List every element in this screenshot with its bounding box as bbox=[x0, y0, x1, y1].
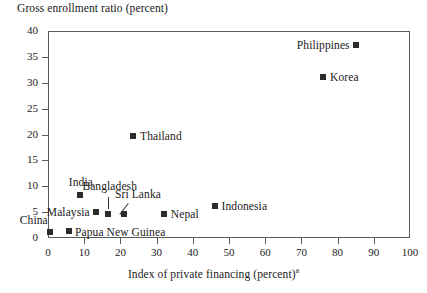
x-axis-tick bbox=[120, 238, 121, 244]
y-axis-tick-label: 0 bbox=[4, 232, 38, 243]
data-point-label: Malaysia bbox=[47, 206, 90, 218]
data-point-label: Indonesia bbox=[222, 200, 268, 212]
x-axis-tick-label: 70 bbox=[281, 247, 321, 258]
scatter-chart-figure: Gross enrollment ratio (percent) 0510152… bbox=[0, 0, 427, 293]
data-point-marker bbox=[320, 74, 326, 80]
x-axis-title-text: Index of private financing (percent) bbox=[128, 268, 296, 280]
y-axis-tick-label: 15 bbox=[4, 154, 38, 165]
x-axis-tick bbox=[338, 238, 339, 244]
x-axis-tick-label: 0 bbox=[28, 247, 68, 258]
x-axis-tick-label: 20 bbox=[100, 247, 140, 258]
data-point-marker bbox=[105, 211, 111, 217]
data-point-marker bbox=[212, 203, 218, 209]
y-axis-tick bbox=[42, 83, 48, 84]
y-axis-tick-label: 30 bbox=[4, 77, 38, 88]
data-point-marker bbox=[47, 229, 53, 235]
x-axis-tick bbox=[193, 238, 194, 244]
y-axis-tick-label: 10 bbox=[4, 180, 38, 191]
y-axis-tick bbox=[42, 186, 48, 187]
x-axis-tick bbox=[301, 238, 302, 244]
data-point-label: Philippines bbox=[297, 39, 350, 51]
x-axis-tick bbox=[84, 238, 85, 244]
data-point-label: Nepal bbox=[171, 208, 199, 220]
y-axis-tick-label: 35 bbox=[4, 51, 38, 62]
y-axis-tick bbox=[42, 160, 48, 161]
x-axis-tick-label: 40 bbox=[173, 247, 213, 258]
x-axis-tick-label: 90 bbox=[354, 247, 394, 258]
y-axis-tick bbox=[42, 57, 48, 58]
y-axis-tick-label: 25 bbox=[4, 103, 38, 114]
y-axis-tick-label: 20 bbox=[4, 129, 38, 140]
x-axis-tick-label: 10 bbox=[64, 247, 104, 258]
data-point-marker bbox=[93, 209, 99, 215]
x-axis-tick-label: 60 bbox=[245, 247, 285, 258]
y-axis-tick-label: 40 bbox=[4, 25, 38, 36]
data-point-label: Korea bbox=[330, 71, 359, 83]
data-point-marker bbox=[77, 192, 83, 198]
data-point-marker bbox=[353, 42, 359, 48]
x-axis-tick-label: 100 bbox=[390, 247, 427, 258]
x-axis-tick-label: 80 bbox=[318, 247, 358, 258]
data-point-label: Papua New Guinea bbox=[75, 226, 165, 238]
y-axis-title: Gross enrollment ratio (percent) bbox=[17, 2, 168, 14]
y-axis-tick bbox=[42, 135, 48, 136]
x-axis-tick-label: 30 bbox=[137, 247, 177, 258]
y-axis-tick bbox=[42, 109, 48, 110]
data-point-label: China bbox=[20, 214, 48, 226]
x-axis-tick bbox=[157, 238, 158, 244]
x-axis-tick-label: 50 bbox=[209, 247, 249, 258]
data-point-marker bbox=[130, 133, 136, 139]
data-point-marker bbox=[66, 228, 72, 234]
x-axis-tick bbox=[374, 238, 375, 244]
x-axis-title-superscript: a bbox=[296, 266, 299, 275]
x-axis-title: Index of private financing (percent)a bbox=[0, 268, 427, 280]
x-axis-tick bbox=[265, 238, 266, 244]
label-leader-line bbox=[108, 197, 109, 209]
data-point-label: Sri Lanka bbox=[115, 188, 161, 200]
data-point-marker bbox=[161, 211, 167, 217]
data-point-label: Thailand bbox=[140, 130, 182, 142]
x-axis-tick bbox=[229, 238, 230, 244]
